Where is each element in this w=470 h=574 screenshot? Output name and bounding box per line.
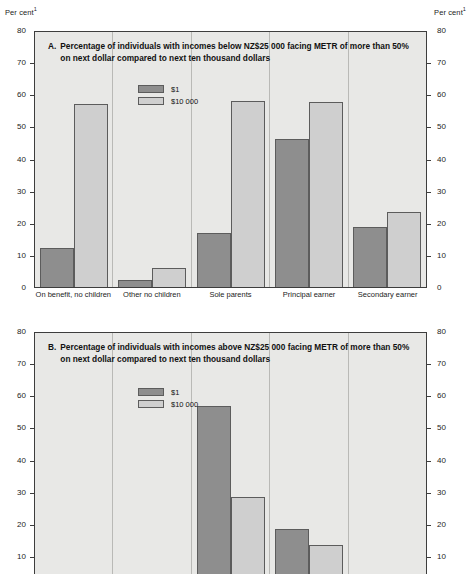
panel-b-title: B. Percentage of individuals with income… <box>48 341 410 365</box>
y-axis-tick-label: 50 <box>437 123 459 131</box>
legend-a: $1$10 000 <box>138 83 198 107</box>
y-axis-tick-label: 50 <box>4 123 26 131</box>
plot-area-a: A. Percentage of individuals with income… <box>34 31 427 288</box>
bar-group <box>113 333 191 574</box>
y-axis-tick-label: 20 <box>437 521 459 529</box>
bar-group-bars <box>349 32 426 287</box>
y-axis-tick-label: 70 <box>437 360 459 368</box>
legend-item[interactable]: $10 000 <box>138 95 198 107</box>
bar-group-bars <box>192 333 269 574</box>
y-axis-footnote-marker: 1 <box>34 6 37 12</box>
plot-area-b: B. Percentage of individuals with income… <box>34 332 427 574</box>
bar[interactable] <box>231 497 265 574</box>
bar-group-bars <box>113 32 190 287</box>
y-axis-tick-label: 60 <box>4 91 26 99</box>
bar[interactable] <box>353 227 387 287</box>
y-axis-tick-mark <box>427 63 431 64</box>
y-axis-tick-mark <box>427 557 431 558</box>
bar[interactable] <box>309 102 343 287</box>
bar-group-bars <box>192 32 269 287</box>
y-axis-tick-mark <box>427 95 431 96</box>
y-axis-tick-mark <box>427 428 431 429</box>
bar[interactable] <box>387 212 421 287</box>
bar-group <box>192 32 270 287</box>
bar[interactable] <box>40 248 74 288</box>
bar[interactable] <box>275 139 309 287</box>
y-axis-tick-label: 70 <box>437 59 459 67</box>
y-axis-tick-label: 80 <box>4 27 26 35</box>
legend-label: $1 <box>171 388 179 397</box>
bar[interactable] <box>74 104 108 287</box>
bar-group-bars <box>35 32 112 287</box>
legend-swatch <box>138 388 164 396</box>
legend-item[interactable]: $10 000 <box>138 398 198 410</box>
panel-b-letter: B. <box>48 341 56 365</box>
bar[interactable] <box>231 101 265 287</box>
bar-group-bars <box>35 333 112 574</box>
y-axis-left: 80706050403020100 <box>0 0 34 320</box>
y-axis-tick-label: 30 <box>437 489 459 497</box>
y-axis-tick-label: 50 <box>4 424 26 432</box>
legend-swatch <box>138 97 164 105</box>
y-axis-tick-mark <box>427 192 431 193</box>
y-axis-tick-mark <box>427 493 431 494</box>
bar[interactable] <box>152 268 186 287</box>
bar-group <box>113 32 191 287</box>
bar[interactable] <box>309 545 343 574</box>
y-axis-tick-label: 20 <box>437 220 459 228</box>
y-axis-tick-label: 20 <box>4 521 26 529</box>
bar-groups-a <box>35 32 426 287</box>
y-axis-tick-label: 30 <box>4 489 26 497</box>
y-axis-tick-label: 30 <box>4 188 26 196</box>
y-axis-tick-label: 20 <box>4 220 26 228</box>
legend-item[interactable]: $1 <box>138 83 198 95</box>
y-axis-left: 80706050403020100 <box>0 320 34 574</box>
y-axis-tick-label: 10 <box>4 553 26 561</box>
y-axis-tick-label: 60 <box>437 392 459 400</box>
bar-groups-b <box>35 333 426 574</box>
bar-group-bars <box>270 333 347 574</box>
bar-group <box>349 32 426 287</box>
y-axis-tick-mark <box>427 396 431 397</box>
y-axis-tick-mark <box>427 224 431 225</box>
y-axis-right: 80706050403020100 <box>427 0 470 320</box>
legend-label: $10 000 <box>171 400 198 409</box>
category-axis-label: Principal earner <box>270 290 349 299</box>
bar[interactable] <box>197 406 231 574</box>
bar-group <box>349 333 426 574</box>
y-axis-tick-label: 80 <box>437 328 459 336</box>
y-axis-tick-mark <box>427 256 431 257</box>
legend-item[interactable]: $1 <box>138 386 198 398</box>
y-axis-tick-label: 40 <box>437 156 459 164</box>
y-axis-right: 80706050403020100 <box>427 320 470 574</box>
y-axis-tick-label: 0 <box>437 284 459 292</box>
category-axis-label: Secondary earner <box>348 290 427 299</box>
category-axis-label: Other no children <box>113 290 192 299</box>
y-axis-tick-label: 70 <box>4 59 26 67</box>
y-axis-tick-label: 10 <box>4 252 26 260</box>
y-axis-tick-label: 40 <box>437 457 459 465</box>
y-axis-tick-mark <box>427 364 431 365</box>
bar[interactable] <box>118 280 152 287</box>
bar[interactable] <box>275 529 309 574</box>
y-axis-tick-mark <box>427 160 431 161</box>
y-axis-tick-mark <box>427 127 431 128</box>
panel-a-title-text: Percentage of individuals with incomes b… <box>60 40 410 64</box>
bar-group <box>192 333 270 574</box>
legend-b: $1$10 000 <box>138 386 198 410</box>
bar-group <box>270 32 348 287</box>
legend-swatch <box>138 85 164 93</box>
bar-group <box>35 32 113 287</box>
bar-group-bars <box>113 333 190 574</box>
bar-group <box>35 333 113 574</box>
category-axis-label: Sole parents <box>191 290 270 299</box>
y-axis-tick-label: 70 <box>4 360 26 368</box>
legend-swatch <box>138 400 164 408</box>
panel-b-title-text: Percentage of individuals with incomes a… <box>60 341 410 365</box>
y-axis-tick-label: 10 <box>437 252 459 260</box>
panel-a-title: A. Percentage of individuals with income… <box>48 40 410 64</box>
legend-label: $1 <box>171 85 179 94</box>
y-axis-tick-label: 10 <box>437 553 459 561</box>
bar[interactable] <box>197 233 231 287</box>
panel-b: 80706050403020100 80706050403020100 B. P… <box>0 320 470 574</box>
